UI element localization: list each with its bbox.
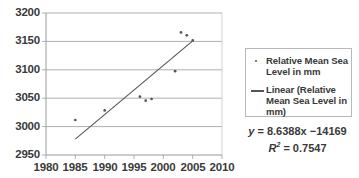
legend-item-scatter: Relative Mean Sea Level in mm [250, 55, 350, 77]
trendline-annotations: y = 8.6388x −14169 R2 = 0.7547 [240, 124, 355, 155]
plot-background [46, 13, 222, 155]
chart-container: 3200 3150 3100 3050 3000 2950 1980 1985 … [0, 0, 359, 178]
y-axis-label-3100: 3100 [0, 63, 40, 75]
x-axis-label-2010: 2010 [205, 161, 239, 173]
y-axis-label-3000: 3000 [0, 120, 40, 132]
chart-legend: Relative Mean Sea Level in mm Linear (Re… [245, 48, 352, 117]
x-axis-label-2000: 2000 [146, 161, 180, 173]
r-squared-number: = 0.7547 [280, 142, 326, 154]
r-squared-value: R2 = 0.7547 [240, 138, 355, 155]
data-point-1997 [144, 99, 147, 102]
legend-item-trendline: Linear (Relative Mean Sea Level in mm) [250, 84, 350, 118]
data-point-2003 [180, 31, 183, 34]
data-point-2002 [174, 70, 177, 73]
y-axis-label-3200: 3200 [0, 6, 40, 18]
x-axis-label-1985: 1985 [58, 161, 92, 173]
regression-equation: y = 8.6388x −14169 [240, 124, 355, 138]
y-axis-ticks [42, 13, 46, 155]
line-dash-icon [250, 84, 266, 97]
data-point-2005 [191, 39, 194, 42]
y-axis-label-3050: 3050 [0, 91, 40, 103]
x-axis-ticks [46, 155, 222, 159]
data-point-1985 [74, 119, 77, 122]
scatter-dot-icon [250, 55, 266, 68]
legend-label-scatter: Relative Mean Sea Level in mm [266, 55, 350, 77]
equation-body: = 8.6388x −14169 [254, 125, 346, 137]
data-point-1996 [139, 95, 142, 98]
y-axis-label-2950: 2950 [0, 148, 40, 160]
data-point-1990 [103, 109, 106, 112]
legend-label-trendline: Linear (Relative Mean Sea Level in mm) [266, 84, 350, 118]
data-point-2004 [185, 34, 188, 37]
data-point-1998 [150, 98, 153, 101]
y-axis-label-3150: 3150 [0, 34, 40, 46]
